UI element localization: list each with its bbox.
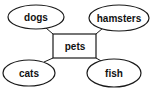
edge-pets-cats — [44, 58, 53, 62]
mind-map-diagram: pets dogs hamsters cats fish — [0, 0, 155, 91]
node-cats[interactable]: cats — [3, 60, 55, 86]
node-cats-label: cats — [19, 68, 39, 79]
node-pets[interactable]: pets — [53, 34, 96, 58]
node-fish-label: fish — [105, 68, 123, 79]
node-dogs[interactable]: dogs — [8, 5, 64, 29]
node-hamsters[interactable]: hamsters — [89, 5, 149, 31]
node-hamsters-label: hamsters — [97, 13, 142, 24]
node-fish[interactable]: fish — [87, 59, 141, 87]
edge-pets-dogs — [46, 28, 53, 34]
node-dogs-label: dogs — [24, 12, 48, 23]
node-pets-label: pets — [65, 41, 86, 52]
